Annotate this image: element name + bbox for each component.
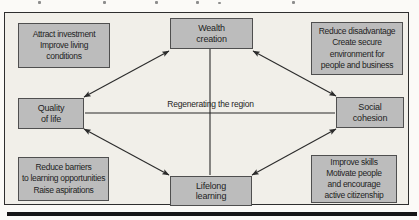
annotation-line: Improve skills: [330, 157, 377, 168]
annotation-line: Reduce disadvantage: [319, 26, 396, 37]
annotation-line: Motivate people: [326, 168, 382, 179]
annotation-attract-investment: Attract investment Improve living condit…: [18, 23, 110, 68]
annotation-line: Reduce barriers: [36, 162, 92, 173]
caption-descender-mark: [38, 1, 41, 4]
annotation-line: and encourage: [328, 179, 381, 190]
node-label-line: creation: [196, 34, 226, 45]
node-label-line: Social: [358, 102, 381, 113]
node-label-line: Quality: [38, 103, 65, 114]
center-label-regenerating-the-region: Regenerating the region: [150, 98, 271, 110]
node-social-cohesion: Social cohesion: [336, 97, 404, 128]
annotation-line: to learning opportunities: [22, 173, 105, 184]
node-label-line: Wealth: [198, 23, 225, 34]
annotation-line: people and business: [321, 60, 393, 71]
node-lifelong-learning: Lifelong learning: [170, 176, 252, 206]
node-label-line: of life: [41, 114, 61, 125]
figure-panel: Wealth creation Quality of life Social c…: [0, 0, 419, 220]
annotation-line: Attract investment: [33, 29, 96, 40]
annotation-line: Raise aspirations: [33, 185, 93, 196]
annotation-reduce-disadvantage: Reduce disadvantage Create secure enviro…: [311, 22, 403, 75]
annotation-line: Create secure: [332, 37, 382, 48]
annotation-line: conditions: [46, 51, 81, 62]
caption-descender-mark: [196, 1, 199, 4]
annotation-reduce-barriers: Reduce barriers to learning opportunitie…: [18, 157, 109, 201]
node-label-line: learning: [196, 191, 226, 202]
node-label-line: cohesion: [353, 113, 387, 124]
caption-descender-mark: [103, 1, 106, 4]
annotation-line: Improve living: [40, 40, 88, 51]
caption-descender-mark: [155, 1, 158, 4]
caption-descender-mark: [218, 2, 221, 4]
page-rule: [7, 212, 417, 216]
node-quality-of-life: Quality of life: [18, 98, 84, 129]
annotation-line: environment for: [330, 49, 385, 60]
node-wealth-creation: Wealth creation: [170, 18, 253, 49]
annotation-line: active citizenship: [325, 190, 384, 201]
caption-descender-mark: [292, 1, 295, 4]
annotation-improve-skills: Improve skills Motivate people and encou…: [311, 155, 397, 203]
node-label-line: Lifelong: [196, 181, 226, 192]
